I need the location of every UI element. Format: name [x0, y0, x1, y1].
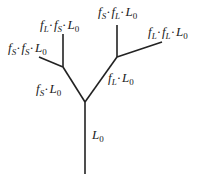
label-base-subscript: 0: [99, 134, 104, 144]
label-separator: ·: [120, 4, 124, 19]
label-base-subscript: 0: [183, 31, 188, 41]
label-base: L: [49, 81, 56, 96]
label-left-up-branch: fL·fS·L0: [40, 18, 79, 31]
label-separator: ·: [62, 17, 66, 32]
label-factor-subscript: L: [166, 31, 171, 41]
label-base-subscript: 0: [75, 24, 80, 34]
label-factor-subscript: L: [112, 77, 117, 87]
label-separator: ·: [117, 70, 121, 85]
label-right-right-branch: fL·fL·L0: [148, 25, 188, 38]
label-trunk: L0: [92, 128, 104, 141]
label-left-left-branch: fS·fS·L0: [8, 41, 47, 54]
label-base: L: [125, 4, 132, 19]
left-branch-edge: [63, 67, 85, 102]
label-separator: ·: [157, 24, 161, 39]
label-separator: ·: [30, 40, 34, 55]
label-right-branch: fL·L0: [108, 71, 134, 84]
label-left-branch: fS·L0: [36, 82, 61, 95]
label-separator: ·: [16, 40, 20, 55]
label-base-subscript: 0: [42, 47, 47, 57]
left-left-branch-edge: [39, 57, 63, 67]
label-factor-subscript: L: [152, 31, 157, 41]
label-separator: ·: [49, 17, 53, 32]
label-separator: ·: [171, 24, 175, 39]
right-right-branch-edge: [117, 42, 162, 57]
label-base-subscript: 0: [129, 77, 134, 87]
label-base-subscript: 0: [57, 88, 62, 98]
label-right-up-branch: fS·fL·L0: [98, 5, 137, 18]
label-separator: ·: [44, 81, 48, 96]
label-base: L: [67, 17, 74, 32]
label-factor-subscript: S: [25, 47, 30, 57]
label-base-subscript: 0: [133, 11, 138, 21]
label-factor-subscript: L: [44, 24, 49, 34]
label-separator: ·: [106, 4, 110, 19]
